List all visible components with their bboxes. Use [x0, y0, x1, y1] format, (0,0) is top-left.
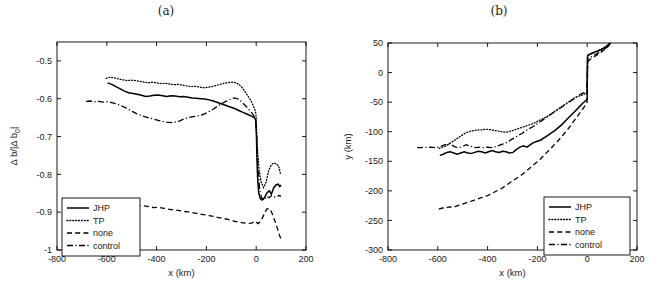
x-axis-label: x (km)	[499, 267, 525, 278]
panel-b-plot: -800-600-400-2000200500-50-100-150-200-2…	[333, 0, 665, 287]
x-tick-label: -800	[379, 254, 397, 264]
y-tick-label: -100	[365, 127, 383, 137]
panel-b: (b) -800-600-400-2000200500-50-100-150-2…	[333, 0, 665, 287]
figure-container: (a) -800-600-400-2000200-0.5-0.6-0.7-0.8…	[0, 0, 665, 287]
y-tick-label: -50	[370, 97, 383, 107]
y-tick-label: 0	[378, 68, 383, 78]
x-tick-label: 0	[585, 254, 590, 264]
x-tick-label: 0	[254, 254, 259, 264]
y-tick-label: -250	[365, 216, 383, 226]
series-tp	[439, 42, 611, 148]
y-tick-label: -200	[365, 186, 383, 196]
y-tick-label: -0.6	[36, 94, 52, 104]
legend-label-none: none	[93, 228, 113, 238]
y-tick-label: -0.7	[36, 132, 52, 142]
series-none	[439, 43, 611, 209]
x-tick-label: 200	[629, 254, 644, 264]
y-tick-label: -150	[365, 156, 383, 166]
x-tick-label: -200	[528, 254, 546, 264]
y-axis-label: Δ b/|Δ b0|	[8, 127, 21, 166]
series-jhp	[108, 83, 282, 200]
panel-a: (a) -800-600-400-2000200-0.5-0.6-0.7-0.8…	[0, 0, 332, 287]
y-tick-label: -0.8	[36, 170, 52, 180]
legend-label-tp: TP	[575, 215, 587, 225]
x-tick-label: -400	[479, 254, 497, 264]
legend-label-control: control	[575, 240, 602, 250]
series-jhp	[440, 43, 610, 155]
panel-a-plot: -800-600-400-2000200-0.5-0.6-0.7-0.8-0.9…	[0, 0, 332, 287]
y-tick-label: 50	[373, 38, 383, 48]
x-tick-label: -600	[429, 254, 447, 264]
y-axis-label: y (km)	[342, 133, 353, 159]
y-tick-label: -0.9	[36, 207, 52, 217]
x-axis-label: x (km)	[168, 267, 194, 278]
legend-label-jhp: JHP	[93, 203, 110, 213]
y-tick-label: -0.5	[36, 56, 52, 66]
x-tick-label: 200	[298, 254, 313, 264]
legend-label-none: none	[575, 227, 595, 237]
y-tick-label: -1	[44, 245, 52, 255]
x-tick-label: -200	[197, 254, 215, 264]
x-tick-label: -400	[148, 254, 166, 264]
legend-label-tp: TP	[93, 216, 105, 226]
legend-label-jhp: JHP	[575, 202, 592, 212]
legend-label-control: control	[93, 241, 120, 251]
series-control	[86, 98, 281, 200]
y-tick-label: -300	[365, 245, 383, 255]
